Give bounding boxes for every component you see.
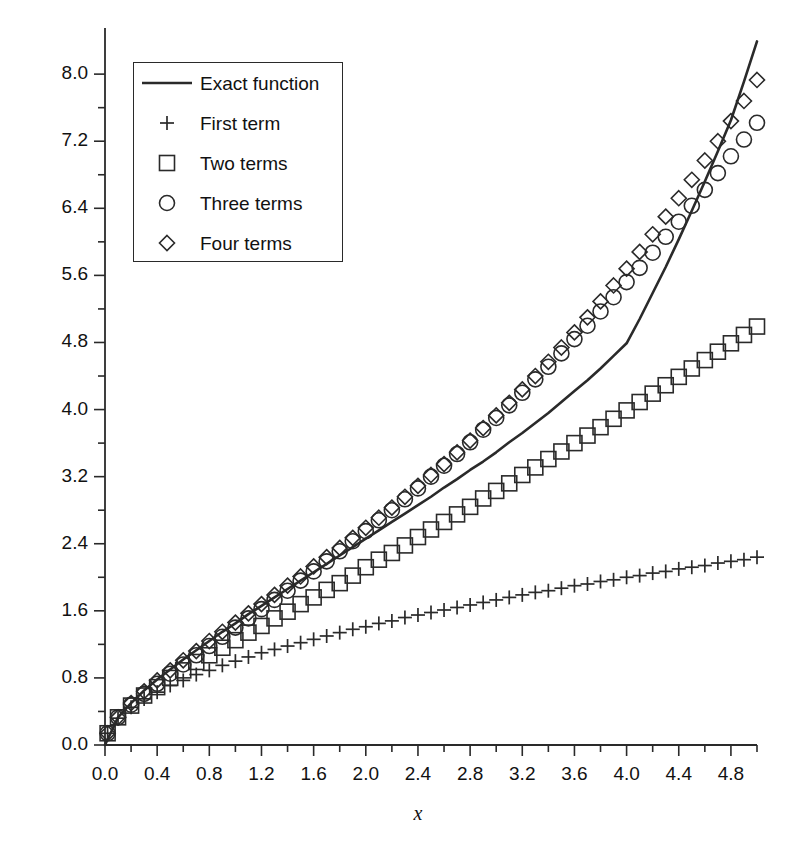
- y-tick-label: 3.2: [30, 465, 88, 487]
- y-tick-label: 6.4: [30, 196, 88, 218]
- marker-square: [160, 156, 175, 171]
- marker-diamond: [750, 72, 765, 87]
- marker-diamond: [515, 382, 530, 397]
- x-tick-label: 2.4: [388, 763, 448, 785]
- y-tick-label: 1.6: [30, 599, 88, 621]
- legend-item-two-terms[interactable]: Two terms: [134, 143, 344, 183]
- marker-diamond: [697, 153, 712, 168]
- legend-item-exact-function[interactable]: Exact function: [134, 63, 344, 103]
- y-tick-label: 0.0: [30, 733, 88, 755]
- legend-label: Two terms: [200, 154, 288, 173]
- legend-plus-icon: [134, 103, 200, 143]
- legend-label: First term: [200, 114, 280, 133]
- x-tick-label: 4.8: [701, 763, 761, 785]
- marker-circle: [554, 346, 569, 361]
- marker-circle: [736, 132, 751, 147]
- legend-line-icon: [134, 63, 200, 103]
- x-tick-label: 0.4: [127, 763, 187, 785]
- legend-item-first-term[interactable]: First term: [134, 103, 344, 143]
- marker-circle: [710, 166, 725, 181]
- y-tick-label: 4.8: [30, 330, 88, 352]
- x-tick-label: 1.2: [231, 763, 291, 785]
- marker-circle: [658, 229, 673, 244]
- x-tick-label: 4.4: [649, 763, 709, 785]
- marker-diamond: [684, 172, 699, 187]
- x-tick-label: 0.0: [75, 763, 135, 785]
- legend-label: Four terms: [200, 234, 292, 253]
- x-tick-label: 0.8: [179, 763, 239, 785]
- legend-square-icon: [134, 143, 200, 183]
- x-tick-label: 4.0: [597, 763, 657, 785]
- y-tick-label: 2.4: [30, 532, 88, 554]
- marker-circle: [750, 115, 765, 130]
- chart-legend: Exact functionFirst termTwo termsThree t…: [133, 62, 343, 262]
- y-tick-label: 0.8: [30, 666, 88, 688]
- y-tick-label: 8.0: [30, 62, 88, 84]
- series-two-terms: [100, 319, 764, 741]
- marker-diamond: [160, 236, 175, 251]
- chart-figure: 0.00.81.62.43.24.04.85.66.47.28.00.00.40…: [0, 0, 796, 857]
- y-tick-label: 4.0: [30, 398, 88, 420]
- marker-circle: [723, 149, 738, 164]
- x-axis-title: x: [398, 802, 438, 825]
- x-tick-label: 1.6: [284, 763, 344, 785]
- y-tick-label: 7.2: [30, 129, 88, 151]
- x-tick-label: 3.6: [544, 763, 604, 785]
- series-first-term: [101, 550, 764, 740]
- marker-circle: [160, 196, 175, 211]
- legend-diamond-icon: [134, 223, 200, 263]
- y-tick-label: 5.6: [30, 263, 88, 285]
- x-tick-label: 3.2: [492, 763, 552, 785]
- legend-item-three-terms[interactable]: Three terms: [134, 183, 344, 223]
- x-tick-label: 2.0: [336, 763, 396, 785]
- marker-circle: [541, 359, 556, 374]
- marker-circle: [280, 583, 295, 598]
- plot-canvas: [0, 0, 796, 857]
- legend-label: Three terms: [200, 194, 302, 213]
- marker-diamond: [528, 369, 543, 384]
- legend-label: Exact function: [200, 74, 319, 93]
- legend-circle-icon: [134, 183, 200, 223]
- legend-item-four-terms[interactable]: Four terms: [134, 223, 344, 263]
- x-tick-label: 2.8: [440, 763, 500, 785]
